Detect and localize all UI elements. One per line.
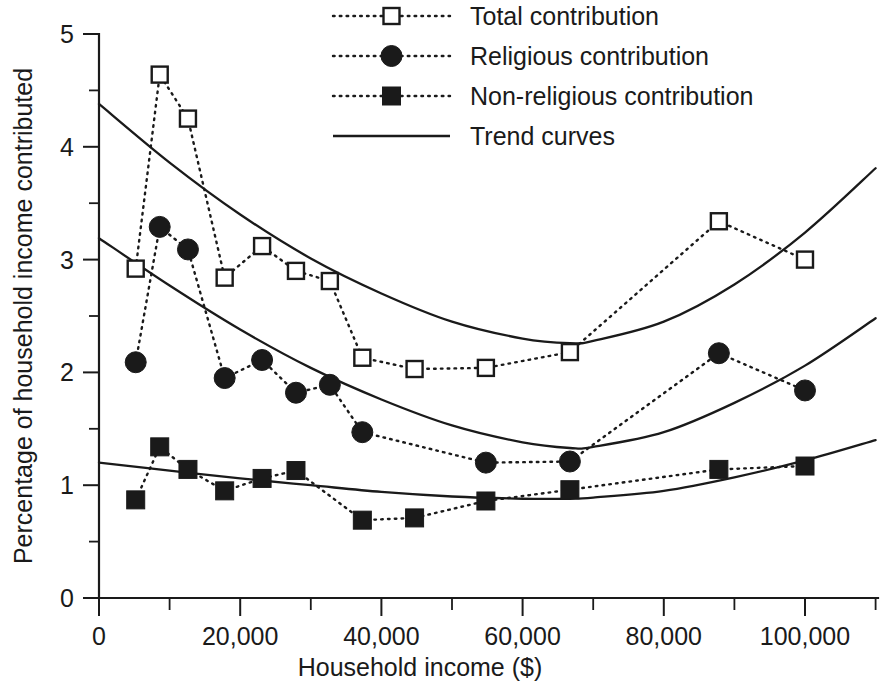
data-point-filled-circle — [214, 368, 235, 389]
data-point-filled-square — [796, 457, 814, 475]
data-point-filled-square — [151, 438, 169, 456]
data-point-open-square — [354, 350, 370, 366]
data-point-filled-square — [287, 462, 305, 480]
data-point-filled-square — [253, 469, 271, 487]
data-point-filled-circle — [795, 380, 816, 401]
chart-figure: 012345 Percentage of household income co… — [0, 0, 880, 693]
data-point-open-square — [407, 361, 423, 377]
y-tick-label: 5 — [60, 20, 74, 48]
data-point-open-square — [128, 261, 144, 277]
x-tick-label: 40,000 — [343, 622, 419, 650]
data-point-filled-square — [561, 481, 579, 499]
x-tick-label: 0 — [92, 622, 106, 650]
data-point-filled-circle — [252, 349, 273, 370]
data-point-open-square — [322, 273, 338, 289]
data-point-filled-square — [710, 460, 728, 478]
data-point-filled-circle — [352, 422, 373, 443]
x-axis-title: Household income ($) — [298, 653, 543, 681]
data-point-open-square — [217, 270, 233, 286]
y-tick-label: 4 — [60, 133, 74, 161]
y-tick-label: 3 — [60, 246, 74, 274]
data-point-filled-square — [127, 491, 145, 509]
y-axis-title: Percentage of household income contribut… — [9, 68, 37, 564]
legend-item[interactable]: Religious contribution — [333, 42, 709, 70]
data-point-open-square — [254, 238, 270, 254]
data-point-open-square — [711, 213, 727, 229]
legend-item-label: Total contribution — [470, 2, 659, 30]
legend-item-label: Trend curves — [470, 122, 615, 150]
data-point-open-square — [180, 111, 196, 127]
data-point-filled-circle — [559, 451, 580, 472]
data-point-filled-circle — [381, 46, 402, 67]
y-tick-label: 0 — [60, 584, 74, 612]
x-tick-label: 60,000 — [484, 622, 560, 650]
x-tick-label: 80,000 — [626, 622, 702, 650]
data-point-filled-circle — [285, 382, 306, 403]
data-point-filled-circle — [708, 343, 729, 364]
data-point-open-square — [384, 8, 400, 24]
data-point-filled-square — [477, 492, 495, 510]
x-tick-label: 100,000 — [760, 622, 850, 650]
y-tick-label: 1 — [60, 471, 74, 499]
data-point-filled-square — [383, 87, 401, 105]
data-point-open-square — [562, 344, 578, 360]
legend-item-label: Non-religious contribution — [470, 82, 753, 110]
data-point-filled-circle — [125, 352, 146, 373]
data-point-filled-square — [353, 511, 371, 529]
data-point-filled-square — [406, 509, 424, 527]
data-point-open-square — [288, 263, 304, 279]
data-point-filled-square — [216, 482, 234, 500]
data-point-open-square — [152, 67, 168, 83]
data-point-filled-circle — [177, 239, 198, 260]
data-point-filled-circle — [149, 216, 170, 237]
x-tick-label: 20,000 — [202, 622, 278, 650]
data-point-filled-circle — [475, 452, 496, 473]
data-point-open-square — [478, 360, 494, 376]
data-point-filled-square — [179, 460, 197, 478]
contribution-scatter-chart: 012345 Percentage of household income co… — [0, 0, 880, 693]
y-tick-label: 2 — [60, 358, 74, 386]
data-point-open-square — [797, 252, 813, 268]
data-point-filled-circle — [319, 374, 340, 395]
legend-item-label: Religious contribution — [470, 42, 709, 70]
